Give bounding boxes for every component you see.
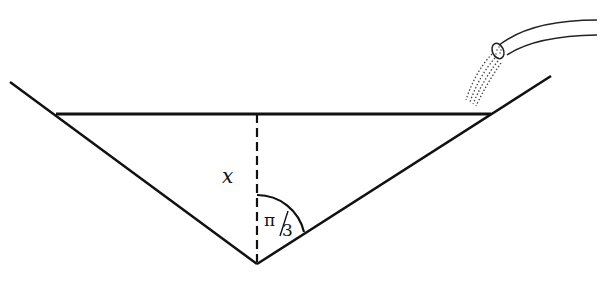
angle-label-denominator: 3 — [282, 220, 293, 240]
trough-diagram: x π 3 — [0, 0, 613, 281]
hose-icon — [490, 20, 597, 61]
trough-right-side — [257, 76, 551, 264]
depth-label: x — [222, 164, 233, 188]
water-stream — [466, 54, 501, 106]
angle-label-numerator: π — [264, 210, 275, 230]
trough-left-side — [10, 82, 257, 264]
